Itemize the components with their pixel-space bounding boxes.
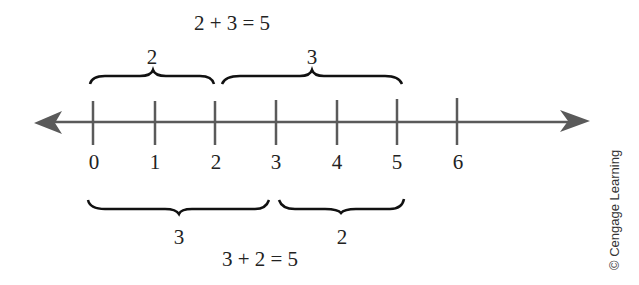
tick-label-5: 5 [392,152,403,173]
bottom-brace-label-3: 3 [174,227,185,248]
tick-label-3: 3 [271,152,282,173]
tick-label-1: 1 [150,152,161,173]
top-equation: 2 + 3 = 5 [194,13,270,34]
top-brace-2 [90,70,214,84]
copyright-credit: © Cengage Learning [607,150,622,270]
top-brace-3 [222,70,402,84]
tick-label-0: 0 [89,152,100,173]
bottom-brace-3 [88,200,269,214]
top-brace-label-2: 2 [147,47,158,68]
tick-label-4: 4 [332,152,343,173]
bottom-brace-2 [279,199,404,213]
number-line-graphic [0,0,639,285]
bottom-brace-label-2: 2 [337,227,348,248]
bottom-equation: 3 + 2 = 5 [222,249,298,270]
tick-label-6: 6 [453,152,464,173]
tick-label-2: 2 [211,152,222,173]
top-brace-label-3: 3 [307,47,318,68]
